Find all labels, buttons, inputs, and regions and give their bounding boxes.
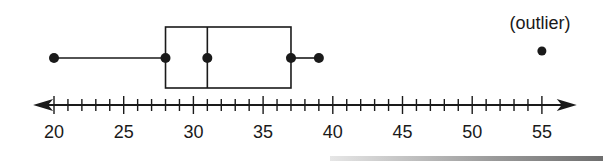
min-point (49, 53, 59, 63)
outlier-point (537, 47, 546, 56)
annotations: (outlier) (509, 13, 570, 33)
outlier-label: (outlier) (509, 13, 570, 33)
tick-label: 40 (323, 122, 343, 142)
q3-point (286, 53, 296, 63)
page-edge-shadow (330, 156, 603, 161)
tick-label: 35 (253, 122, 273, 142)
tick-label: 50 (462, 122, 482, 142)
box-and-whisker (49, 27, 324, 88)
tick-label: 55 (532, 122, 552, 142)
box-plot: 2025303540455055 (outlier) (0, 0, 603, 161)
number-line-axis: 2025303540455055 (33, 96, 577, 142)
tick-label: 45 (392, 122, 412, 142)
tick-label: 20 (44, 122, 64, 142)
tick-label: 30 (183, 122, 203, 142)
iqr-box (166, 27, 291, 88)
median-point (202, 53, 212, 63)
tick-label: 25 (114, 122, 134, 142)
max-point (314, 53, 324, 63)
q1-point (161, 53, 171, 63)
outlier-points (537, 47, 546, 56)
